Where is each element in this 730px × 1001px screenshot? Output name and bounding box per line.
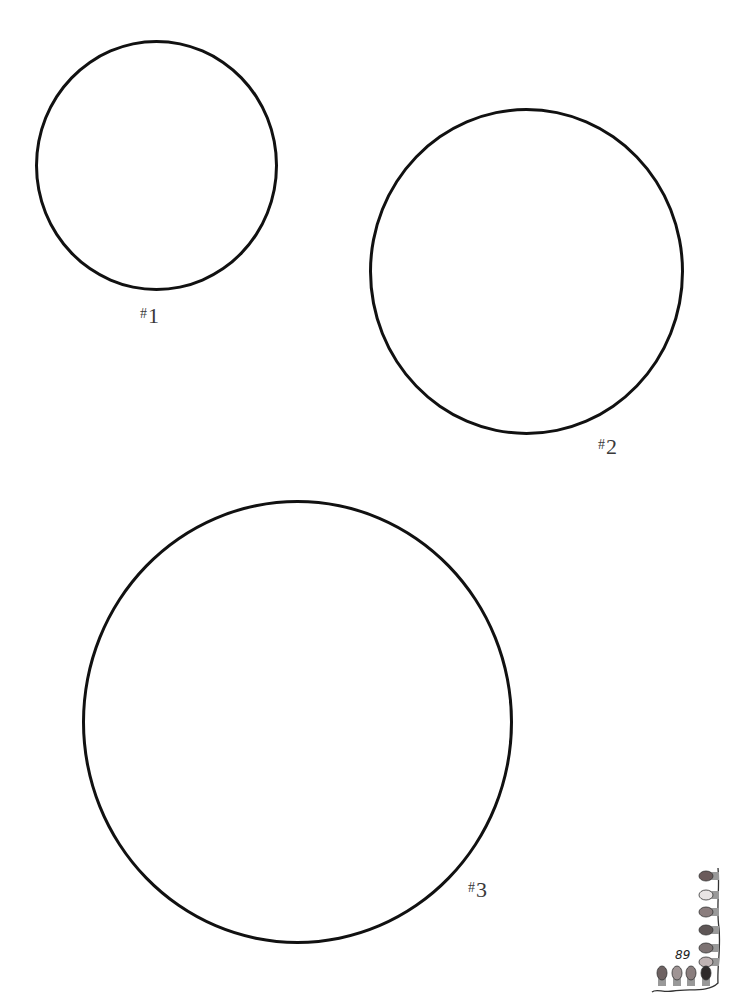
circle-2 <box>369 108 684 435</box>
circle-number: 3 <box>476 877 487 902</box>
hash-symbol: # <box>140 306 147 321</box>
circle-2-label: #2 <box>598 436 617 458</box>
circle-number: 2 <box>606 434 617 459</box>
hash-symbol: # <box>598 437 605 452</box>
page-number: 89 <box>675 948 690 962</box>
circle-number: 1 <box>148 303 159 328</box>
circle-3 <box>82 500 513 944</box>
circle-1-label: #1 <box>140 305 159 327</box>
vertical-bulbs <box>699 871 719 967</box>
circle-1 <box>35 40 278 291</box>
horizontal-bulbs <box>657 966 711 986</box>
string-of-lights-icon <box>648 868 728 998</box>
hash-symbol: # <box>468 880 475 895</box>
circle-3-label: #3 <box>468 879 487 901</box>
